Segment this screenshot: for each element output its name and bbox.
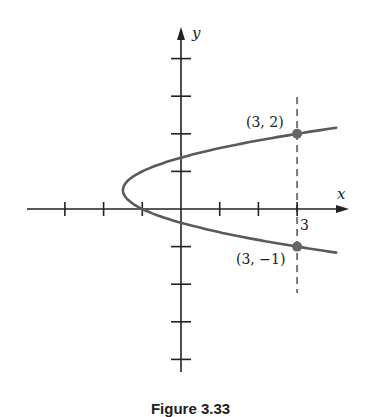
y-axis-arrow-icon <box>177 27 185 40</box>
point-3-neg1 <box>292 242 302 252</box>
parabola-curve <box>123 128 336 253</box>
x-axis <box>27 202 349 216</box>
point-label-upper: (3, 2) <box>246 114 284 130</box>
point-3-2 <box>292 129 302 139</box>
y-axis <box>171 27 191 372</box>
point-label-lower: (3, −1) <box>236 251 285 267</box>
x-tick-label-3: 3 <box>300 217 309 233</box>
y-axis-label: y <box>191 24 201 42</box>
figure-caption: Figure 3.33 <box>0 400 381 417</box>
x-axis-arrow-icon <box>336 205 349 213</box>
x-axis-label: x <box>337 185 346 203</box>
